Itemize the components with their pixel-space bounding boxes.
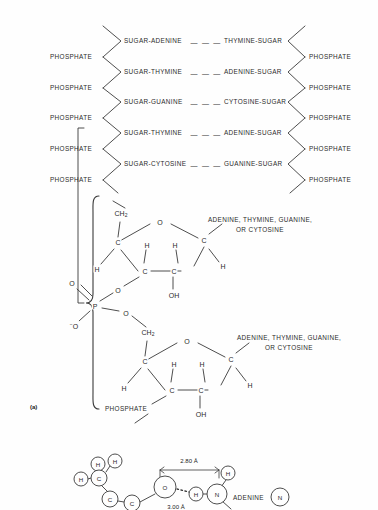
nitrogen-atom: N — [214, 491, 220, 498]
oxygen-atom-ester-bottom: O — [122, 310, 129, 317]
carbon-atom: C — [141, 268, 148, 275]
carbon-atom: C — [227, 356, 234, 363]
figure-linework — [0, 0, 378, 510]
base-name-label: ADENINE — [233, 494, 264, 501]
ladder-left-base: SUGAR-THYMINE — [124, 68, 182, 75]
ring-oxygen-atom: O — [183, 338, 190, 345]
phosphate-label: PHOSPHATE — [309, 84, 351, 91]
hydrogen-atom: H — [78, 476, 84, 483]
hydrogen-atom: H — [193, 491, 199, 498]
carbon-atom: C — [129, 500, 135, 507]
hydrogen-bond-dashes: — — — — [191, 131, 222, 138]
ladder-right-base: GUANINE-SUGAR — [224, 160, 283, 167]
oxygen-atom: O — [162, 484, 169, 491]
carbon-atom: C — [107, 496, 113, 503]
phosphate-label: PHOSPHATE — [50, 84, 92, 91]
hydrogen-atom: H — [171, 242, 178, 249]
hydrogen-atom: H — [225, 470, 231, 477]
panel-label-a: (a) — [30, 404, 37, 410]
distance-label-bottom: 3.00 Å — [167, 504, 184, 510]
phosphate-label: PHOSPHATE — [50, 114, 92, 121]
ladder-right-base: ADENINE-SUGAR — [224, 129, 282, 136]
ladder-left-base: SUGAR-THYMINE — [124, 129, 182, 136]
ladder-right-base: CYTOSINE-SUGAR — [224, 98, 286, 105]
distance-label-top: 2.80 Å — [180, 458, 197, 464]
phosphate-label: PHOSPHATE — [309, 145, 351, 152]
hydrogen-atom: H — [143, 242, 150, 249]
dna-structure-figure: SUGAR-ADENINE SUGAR-THYMINE SUGAR-GUANIN… — [0, 0, 378, 510]
hydrogen-atom: H — [198, 361, 205, 368]
oxygen-atom-anionic: −O — [69, 321, 79, 330]
carbon-atom: C — [96, 475, 102, 482]
phosphate-label: PHOSPHATE — [309, 114, 351, 121]
ladder-left-base: SUGAR-CYTOSINE — [124, 160, 186, 167]
hydroxyl-group: OH — [168, 292, 181, 299]
carbon-atom: C — [168, 387, 175, 394]
phosphate-label: PHOSPHATE — [309, 53, 351, 60]
base-label-line1: ADENINE, THYMINE, GUANINE, — [208, 216, 312, 223]
phosphate-label: PHOSPHATE — [50, 53, 92, 60]
ladder-right-base: THYMINE-SUGAR — [224, 37, 282, 44]
ch2-group: CH2 — [114, 210, 129, 218]
ladder-right-base: ADENINE-SUGAR — [224, 68, 282, 75]
nitrogen-atom: N — [277, 494, 283, 501]
hydrogen-atom: H — [95, 461, 101, 468]
hydrogen-atom: H — [219, 263, 226, 270]
phosphate-label: PHOSPHATE — [309, 176, 351, 183]
carbon-atom: C — [197, 387, 204, 394]
oxygen-atom-ester-top: O — [114, 287, 121, 294]
phosphorus-atom: P — [92, 303, 99, 310]
carbon-atom: C — [114, 239, 121, 246]
hydroxyl-group: OH — [195, 411, 208, 418]
carbon-atom: C — [170, 268, 177, 275]
base-label-line1: ADENINE, THYMINE, GUANINE, — [237, 334, 341, 341]
base-label-line2: OR CYTOSINE — [265, 344, 313, 351]
hydrogen-atom: H — [93, 266, 100, 273]
hydrogen-atom: H — [170, 361, 177, 368]
phosphate-label: PHOSPHATE — [105, 405, 147, 412]
hydrogen-bond-dashes: — — — — [191, 162, 222, 169]
base-label-line2: OR CYTOSINE — [236, 226, 284, 233]
phosphate-label: PHOSPHATE — [50, 145, 92, 152]
hydrogen-bond-dashes: — — — — [191, 39, 222, 46]
ch2-group: CH2 — [141, 329, 156, 337]
hydrogen-bond-dashes: — — — — [191, 100, 222, 107]
ladder-left-base: SUGAR-GUANINE — [124, 98, 183, 105]
hydrogen-atom: H — [120, 385, 127, 392]
hydrogen-atom: H — [246, 382, 253, 389]
ladder-left-base: SUGAR-ADENINE — [124, 37, 182, 44]
phosphate-label: PHOSPHATE — [50, 176, 92, 183]
hydrogen-bond-dashes: — — — — [191, 70, 222, 77]
oxygen-atom-double-bond: O — [68, 280, 75, 287]
hydrogen-atom: H — [112, 458, 118, 465]
ring-oxygen-atom: O — [156, 219, 163, 226]
carbon-atom: C — [200, 237, 207, 244]
carbon-atom: C — [141, 358, 148, 365]
